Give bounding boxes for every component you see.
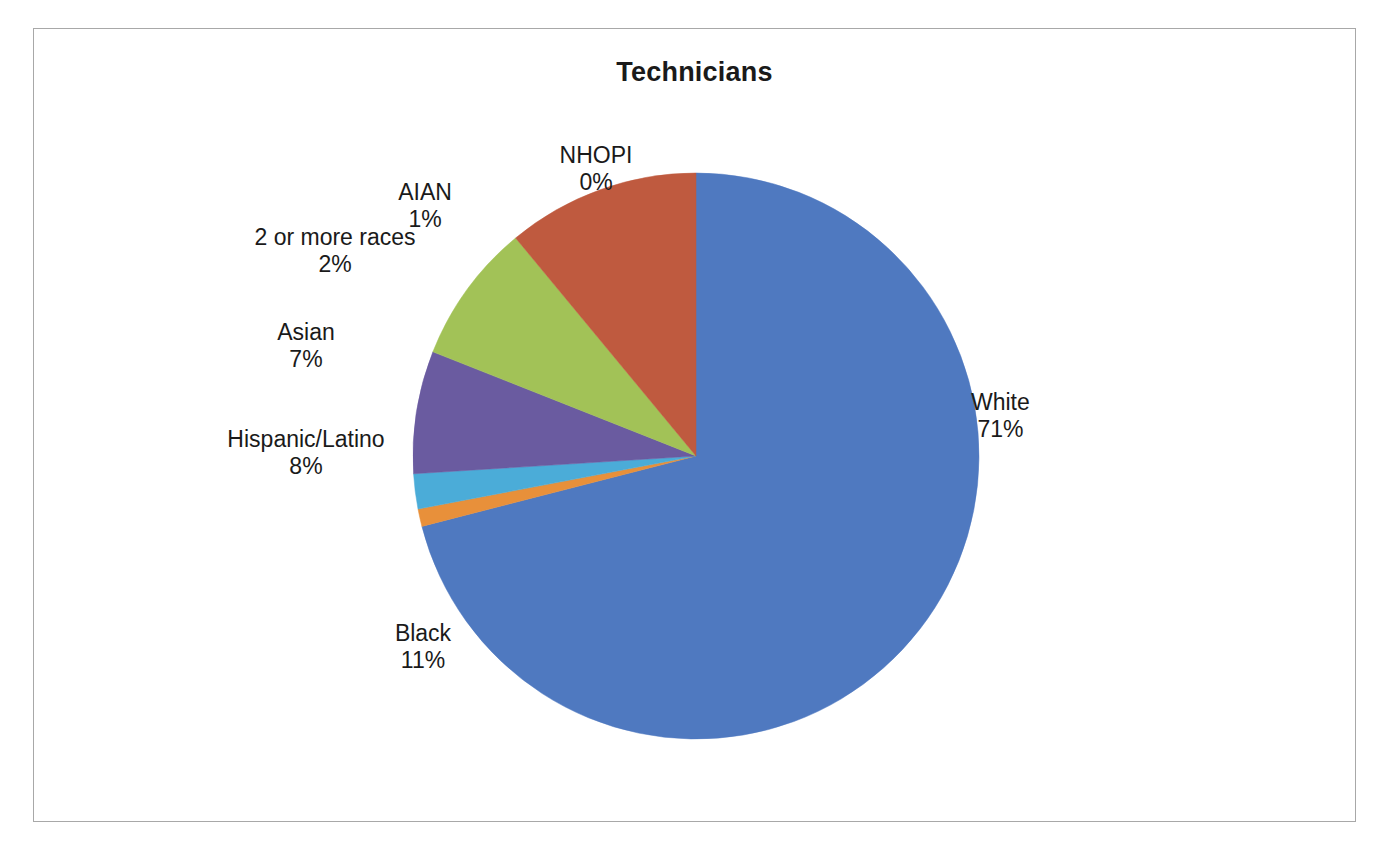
pie-label-hispanic-latino-name: Hispanic/Latino [227, 426, 384, 453]
pie-label-black-percent: 11% [395, 647, 451, 674]
pie-label-white-percent: 71% [971, 416, 1030, 443]
pie-label-nhopi-percent: 0% [560, 169, 633, 196]
pie-label-black-name: Black [395, 620, 451, 647]
pie-label-nhopi-name: NHOPI [560, 142, 633, 169]
chart-frame: Technicians NHOPI 0% AIAN 1% 2 or more r… [33, 28, 1356, 822]
pie-label-asian: Asian 7% [277, 319, 335, 373]
pie-label-two-or-more-races-name: 2 or more races [254, 224, 415, 251]
pie-label-aian-name: AIAN [398, 179, 452, 206]
pie-label-asian-percent: 7% [277, 346, 335, 373]
pie-label-hispanic-latino-percent: 8% [227, 453, 384, 480]
pie-label-two-or-more-races-percent: 2% [254, 251, 415, 278]
pie-label-two-or-more-races: 2 or more races 2% [254, 224, 415, 278]
pie-label-nhopi: NHOPI 0% [560, 142, 633, 196]
pie-label-asian-name: Asian [277, 319, 335, 346]
pie-label-black: Black 11% [395, 620, 451, 674]
pie-label-hispanic-latino: Hispanic/Latino 8% [227, 426, 384, 480]
pie-label-white-name: White [971, 389, 1030, 416]
pie-plot-area: NHOPI 0% AIAN 1% 2 or more races 2% Asia… [34, 29, 1357, 823]
pie-label-white: White 71% [971, 389, 1030, 443]
pie-slices-group [413, 173, 979, 739]
